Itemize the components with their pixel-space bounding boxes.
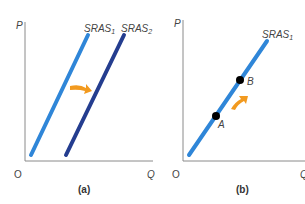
y-axis-label: P bbox=[174, 18, 181, 29]
sras1-curve bbox=[189, 41, 267, 155]
point-b-label: B bbox=[247, 76, 254, 87]
sras2-label: SRAS2 bbox=[121, 23, 152, 35]
caption-b: (b) bbox=[236, 184, 249, 195]
origin-label: O bbox=[172, 169, 180, 180]
panel-b: P Q O SRAS1 A B (b) bbox=[172, 18, 305, 195]
sras1-label: SRAS1 bbox=[84, 23, 115, 35]
x-axis-label: Q bbox=[300, 169, 305, 180]
movement-arrow-icon bbox=[231, 96, 248, 110]
point-b bbox=[236, 76, 244, 84]
x-axis-label: Q bbox=[147, 169, 155, 180]
point-a-label: A bbox=[217, 119, 225, 130]
sras2-curve bbox=[66, 35, 124, 155]
sras1-label: SRAS1 bbox=[262, 29, 293, 41]
y-axis-label: P bbox=[16, 20, 23, 31]
caption-a: (a) bbox=[78, 184, 90, 195]
sras1-curve bbox=[31, 35, 88, 155]
origin-label: O bbox=[14, 169, 22, 180]
shift-arrow-icon bbox=[70, 84, 92, 94]
panel-a: P Q O SRAS1 SRAS2 (a) bbox=[14, 20, 155, 195]
diagram-canvas: P Q O SRAS1 SRAS2 (a) P Q O SRAS1 A B (b… bbox=[0, 0, 305, 204]
